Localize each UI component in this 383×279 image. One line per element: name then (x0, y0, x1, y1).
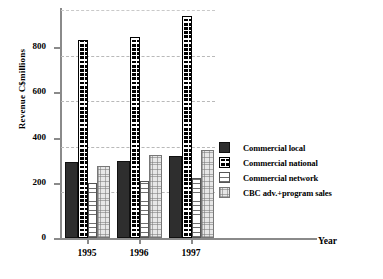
legend-label-cbc-adv-program-sales: CBC adv.+program sales (243, 188, 332, 198)
x-axis-line (55, 238, 317, 240)
bar-1995-commercial-national (78, 40, 88, 238)
bar-1997-commercial-local (169, 156, 182, 238)
bar-1997-cbc-adv-program (201, 150, 214, 238)
legend-swatch-cbc-adv-program-sales (219, 187, 230, 198)
x-axis-title: Year (318, 236, 337, 246)
x-tick-1995 (87, 238, 89, 244)
bar-1997-commercial-national (182, 16, 192, 238)
legend-label-commercial-network: Commercial network (243, 173, 318, 183)
x-category-1996: 1996 (112, 248, 166, 258)
legend-item-commercial-national: Commercial national (219, 155, 381, 170)
y-tick-600 (54, 92, 62, 94)
bar-1997-commercial-network (192, 178, 201, 238)
x-category-1997: 1997 (164, 248, 218, 258)
plot-area (61, 10, 215, 238)
bar-1996-commercial-national (130, 37, 140, 238)
bar-group-1995 (65, 10, 111, 238)
y-tick-400 (54, 138, 62, 140)
legend-item-commercial-network: Commercial network (219, 170, 381, 185)
x-category-1995: 1995 (60, 248, 114, 258)
bar-group-1997 (169, 10, 215, 238)
legend-swatch-commercial-local (219, 142, 230, 153)
y-tick-200 (54, 183, 62, 185)
legend-label-commercial-local: Commercial local (243, 143, 305, 153)
bar-1995-commercial-network (88, 183, 97, 238)
bar-chart: Revenue C$millions (0, 0, 383, 279)
legend-swatch-commercial-network (219, 172, 230, 183)
y-tick-0 (54, 238, 62, 240)
y-tick-label-0: 0 (0, 232, 46, 242)
y-tick-label-600: 600 (0, 86, 46, 96)
x-tick-1996 (139, 238, 141, 244)
bar-1996-cbc-adv-program (149, 155, 162, 238)
y-tick-label-200: 200 (0, 177, 46, 187)
bar-1996-commercial-network (140, 181, 149, 238)
bar-1995-cbc-adv-program (97, 166, 110, 239)
y-tick-label-800: 800 (0, 41, 46, 51)
chart-legend: Commercial local Commercial national Com… (219, 140, 381, 200)
x-tick-1997 (191, 238, 193, 244)
bar-group-1996 (117, 10, 163, 238)
bar-1996-commercial-local (117, 161, 130, 239)
bar-1995-commercial-local (65, 162, 78, 238)
y-tick-label-400: 400 (0, 132, 46, 142)
legend-item-cbc-adv-program-sales: CBC adv.+program sales (219, 185, 381, 200)
y-tick-800 (54, 47, 62, 49)
legend-item-commercial-local: Commercial local (219, 140, 381, 155)
legend-label-commercial-national: Commercial national (243, 158, 318, 168)
legend-swatch-commercial-national (219, 157, 230, 168)
